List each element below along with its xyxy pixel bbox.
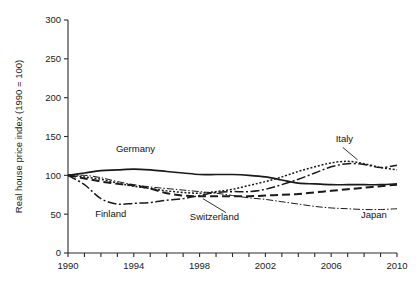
x-tick-label: 1994 <box>123 260 144 271</box>
y-tick-label: 200 <box>45 92 61 103</box>
line-chart: 0501001502002503001990199419982002200620… <box>0 0 420 291</box>
y-tick-label: 150 <box>45 131 61 142</box>
series-label-switzerland: Switzerland <box>190 211 239 222</box>
series-label-italy: Italy <box>336 133 354 144</box>
y-tick-label: 300 <box>45 14 61 25</box>
y-tick-label: 50 <box>50 209 61 220</box>
x-tick-label: 2006 <box>321 260 342 271</box>
series-line-japan <box>68 175 397 209</box>
chart-figure: 0501001502002503001990199419982002200620… <box>0 0 420 291</box>
x-tick-label: 2002 <box>255 260 276 271</box>
series-line-switzerland <box>68 175 397 196</box>
series-label-japan: Japan <box>361 209 387 220</box>
x-tick-label: 1990 <box>57 260 78 271</box>
x-tick-label: 1998 <box>189 260 210 271</box>
y-tick-label: 0 <box>56 247 61 258</box>
y-axis-title: Real house price index (1990 = 100) <box>13 60 24 213</box>
y-tick-label: 100 <box>45 170 61 181</box>
series-label-germany: Germany <box>116 143 155 154</box>
x-tick-label: 2010 <box>386 260 407 271</box>
y-tick-label: 250 <box>45 53 61 64</box>
data-series <box>68 161 397 209</box>
series-label-finland: Finland <box>95 208 126 219</box>
